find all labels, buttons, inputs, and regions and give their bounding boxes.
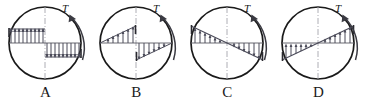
- option-label-d: D: [273, 84, 364, 101]
- stress-distribution-left: [100, 25, 136, 43]
- stress-distribution-right: [324, 25, 354, 43]
- stress-distribution-left: [192, 25, 222, 43]
- torque-label-c: T: [244, 2, 251, 14]
- stress-distribution-right: [45, 43, 81, 58]
- option-label-a: A: [0, 84, 91, 101]
- diagram-c: T: [182, 0, 273, 90]
- torque-label-b: T: [153, 2, 160, 14]
- diagram-b: T: [91, 0, 182, 90]
- multiple-choice-figure: T A: [0, 0, 365, 111]
- option-panel-a[interactable]: T A: [0, 0, 91, 111]
- option-panel-c[interactable]: T C: [182, 0, 273, 111]
- diagram-d: T: [273, 0, 364, 90]
- diagram-a: T: [0, 0, 91, 90]
- torque-arrow-icon: [251, 15, 267, 61]
- torque-arrow-icon: [160, 15, 176, 61]
- option-panel-b[interactable]: T B: [91, 0, 182, 111]
- stress-distribution-right: [233, 43, 263, 61]
- option-label-c: C: [182, 84, 273, 101]
- stress-distribution-left: [9, 28, 45, 43]
- option-panel-d[interactable]: T D: [273, 0, 364, 111]
- torque-label-d: T: [335, 2, 342, 14]
- stress-distribution-right: [136, 43, 172, 61]
- torque-label-a: T: [62, 2, 69, 14]
- option-label-b: B: [91, 84, 182, 101]
- torque-arrow-icon: [342, 15, 358, 61]
